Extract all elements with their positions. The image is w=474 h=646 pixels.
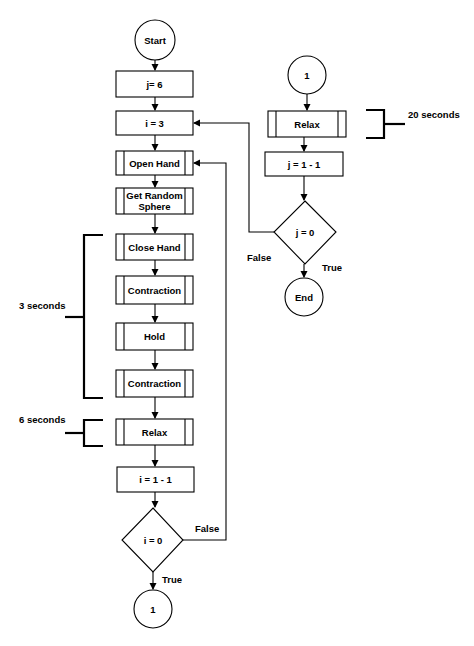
contraction-1-label: Contraction	[128, 285, 182, 296]
i-decrement-label: i = 1 - 1	[139, 474, 172, 485]
i-check-true-label: True	[162, 574, 182, 585]
arrow-j-false-loop	[194, 123, 274, 232]
decision-j-zero: j = 0	[274, 201, 336, 264]
six-seconds-label: 6 seconds	[19, 414, 65, 425]
open-hand-label: Open Hand	[129, 158, 180, 169]
subprocess-contraction-1: Contraction	[116, 276, 193, 304]
process-i-init: i = 3	[116, 111, 193, 135]
bracket-six-seconds	[65, 420, 103, 446]
three-seconds-label: 3 seconds	[19, 300, 65, 311]
j-check-label: j = 0	[295, 227, 315, 238]
subprocess-relax-right: Relax	[268, 111, 346, 137]
start-label: Start	[144, 35, 166, 46]
subprocess-hold: Hold	[116, 323, 193, 350]
flowchart-canvas: Start j= 6 i = 3 Open Hand Get Random Sp…	[0, 0, 474, 646]
end-terminal: End	[285, 278, 323, 316]
subprocess-relax-left: Relax	[116, 419, 193, 445]
subprocess-contraction-2: Contraction	[116, 370, 193, 397]
j-decrement-label: j = 1 - 1	[287, 159, 321, 170]
contraction-2-label: Contraction	[128, 378, 182, 389]
j-check-true-label: True	[322, 262, 342, 273]
j-init-label: j= 6	[145, 79, 162, 90]
connector-in-label: 1	[304, 70, 310, 81]
get-random-sphere-label-1: Get Random	[126, 190, 182, 201]
end-label: End	[295, 292, 313, 303]
relax-right-label: Relax	[294, 119, 320, 130]
get-random-sphere-label-2: Sphere	[138, 201, 170, 212]
connector-out-label: 1	[150, 604, 156, 615]
process-j-init: j= 6	[116, 71, 193, 97]
close-hand-label: Close Hand	[128, 242, 180, 253]
i-init-label: i = 3	[145, 118, 164, 129]
i-check-label: i = 0	[144, 535, 163, 546]
process-j-decrement: j = 1 - 1	[265, 152, 343, 176]
bracket-twenty-seconds	[366, 110, 405, 138]
start-terminal: Start	[135, 20, 175, 60]
connector-1-out: 1	[134, 590, 172, 628]
subprocess-close-hand: Close Hand	[116, 234, 193, 260]
j-check-false-label: False	[247, 252, 271, 263]
subprocess-get-random-sphere: Get Random Sphere	[116, 188, 193, 214]
connector-1-in: 1	[288, 56, 326, 94]
twenty-seconds-label: 20 seconds	[408, 109, 460, 120]
i-check-false-label: False	[195, 523, 219, 534]
subprocess-open-hand: Open Hand	[116, 151, 193, 175]
relax-left-label: Relax	[142, 427, 168, 438]
hold-label: Hold	[144, 331, 165, 342]
process-i-decrement: i = 1 - 1	[117, 467, 194, 492]
bracket-three-seconds	[65, 235, 103, 398]
decision-i-zero: i = 0	[122, 508, 183, 572]
